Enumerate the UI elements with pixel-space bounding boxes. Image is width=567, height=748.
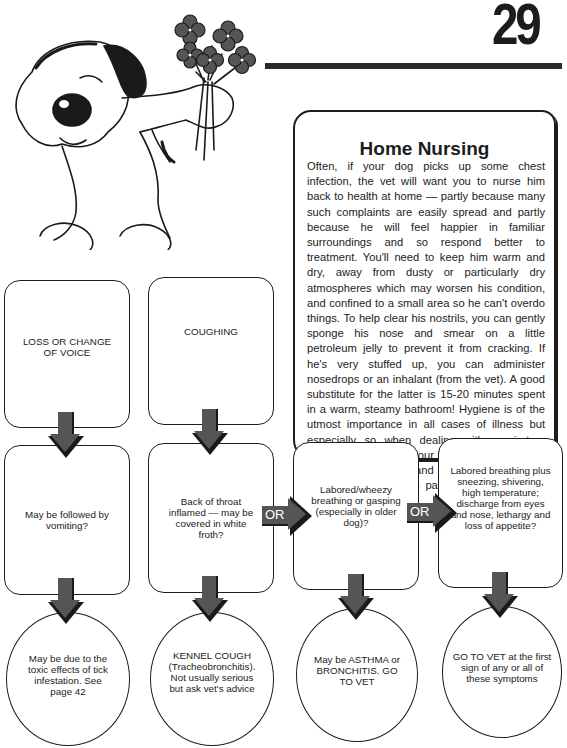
outcome-label: KENNEL COUGH (Tracheobronchitis). Not us… <box>164 650 260 694</box>
symptom-label: LOSS OR CHANGE OF VOICE <box>17 336 117 358</box>
question-box-vomiting: May be followed by vomiting? <box>4 445 130 595</box>
or-label: OR <box>265 507 285 522</box>
header-rule <box>265 63 562 69</box>
question-box-throat: Back of throat inflamed — may be covered… <box>148 443 274 593</box>
outcome-label: GO TO VET at the first sign of any or al… <box>452 651 552 684</box>
question-label: May be followed by vomiting? <box>22 509 112 531</box>
outcome-label: May be ASTHMA or BRONCHITIS. GO TO VET <box>311 654 403 687</box>
arrow-down-icon <box>480 572 520 622</box>
outcome-circle-kennel-cough: KENNEL COUGH (Tracheobronchitis). Not us… <box>150 612 274 746</box>
page-number: 29 <box>492 0 549 48</box>
symptom-box-voice: LOSS OR CHANGE OF VOICE <box>4 280 130 428</box>
arrow-down-icon <box>46 412 86 462</box>
question-label: Back of throat inflamed — may be covered… <box>166 496 256 540</box>
outcome-circle-tick: May be due to the toxic effects of tick … <box>6 612 130 746</box>
arrow-down-icon <box>190 409 230 459</box>
arrow-down-icon <box>336 574 376 624</box>
question-label: Labored/wheezy breathing or gasping (esp… <box>308 484 404 528</box>
arrow-down-icon <box>190 576 230 626</box>
outcome-circle-go-to-vet: GO TO VET at the first sign of any or al… <box>442 606 562 738</box>
dog-with-flowers-illustration <box>0 0 270 250</box>
home-nursing-panel: Home Nursing Often, if your dog picks up… <box>293 110 556 460</box>
or-connector: OR <box>407 493 459 533</box>
symptom-label: COUGHING <box>161 326 261 337</box>
or-connector: OR <box>262 496 314 536</box>
outcome-circle-asthma: May be ASTHMA or BRONCHITIS. GO TO VET <box>296 608 418 742</box>
or-label: OR <box>410 504 430 519</box>
home-nursing-title: Home Nursing <box>295 138 554 160</box>
outcome-label: May be due to the toxic effects of tick … <box>22 653 114 697</box>
symptom-box-coughing: COUGHING <box>148 277 274 425</box>
question-label: Labored breathing plus sneezing, shiveri… <box>448 465 554 531</box>
arrow-down-icon <box>46 578 86 628</box>
